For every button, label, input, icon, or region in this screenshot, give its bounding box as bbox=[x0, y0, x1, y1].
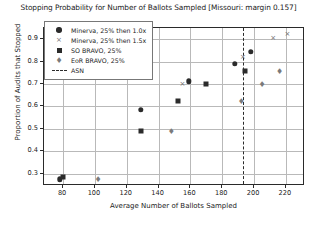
legend-label: ASN bbox=[71, 67, 84, 74]
x-axis-title: Average Number of Ballots Sampled bbox=[43, 202, 304, 210]
legend-marker bbox=[47, 70, 71, 71]
x-tick bbox=[189, 185, 190, 188]
legend-item[interactable]: SO BRAVO, 25% bbox=[47, 45, 150, 55]
legend-marker: ♦ bbox=[47, 57, 71, 64]
legend-label: SO BRAVO, 25% bbox=[71, 47, 121, 54]
data-point: ♦ bbox=[259, 81, 266, 88]
y-tick-label: 0.6 bbox=[28, 101, 39, 109]
marker-circle bbox=[232, 61, 237, 66]
legend-item[interactable]: Minerva, 25% then 1.0x bbox=[47, 25, 150, 35]
data-point: × bbox=[270, 35, 277, 42]
chart-title: Stopping Probability for Number of Ballo… bbox=[0, 3, 317, 12]
y-tick-label: 0.8 bbox=[28, 57, 39, 65]
y-tick bbox=[40, 150, 43, 151]
legend-item[interactable]: ×Minerva, 25% then 1.5x bbox=[47, 35, 150, 45]
data-point bbox=[139, 129, 144, 134]
data-point: ♦ bbox=[168, 128, 175, 135]
x-tick-label: 220 bbox=[279, 189, 292, 197]
y-tick bbox=[40, 83, 43, 84]
data-point bbox=[138, 107, 143, 112]
data-point: × bbox=[284, 30, 291, 37]
x-tick bbox=[253, 185, 254, 188]
asn-vertical-line bbox=[243, 28, 244, 184]
marker-square bbox=[139, 129, 144, 134]
marker-square bbox=[61, 175, 66, 180]
marker-circle bbox=[138, 107, 143, 112]
marker-x: × bbox=[270, 35, 277, 42]
legend-item[interactable]: ASN bbox=[47, 66, 150, 76]
y-tick-label: 0.5 bbox=[28, 124, 39, 132]
legend-marker bbox=[47, 48, 71, 53]
x-tick-label: 100 bbox=[88, 189, 101, 197]
marker-dashed-line bbox=[52, 70, 67, 71]
marker-x: × bbox=[179, 81, 186, 88]
legend-label: Minerva, 25% then 1.5x bbox=[71, 37, 146, 44]
x-tick-label: 200 bbox=[247, 189, 260, 197]
x-tick-label: 140 bbox=[151, 189, 164, 197]
legend-marker: × bbox=[47, 37, 71, 44]
marker-square bbox=[175, 98, 180, 103]
marker-square bbox=[57, 48, 62, 53]
marker-circle bbox=[56, 27, 61, 32]
y-tick-label: 0.4 bbox=[28, 146, 39, 154]
gridline-horizontal bbox=[44, 174, 303, 175]
data-point: ♦ bbox=[95, 175, 102, 182]
y-tick bbox=[40, 173, 43, 174]
y-tick bbox=[40, 61, 43, 62]
marker-x: × bbox=[56, 37, 63, 44]
x-tick-label: 160 bbox=[183, 189, 196, 197]
x-tick-label: 120 bbox=[119, 189, 132, 197]
marker-thin-diamond: ♦ bbox=[95, 175, 102, 182]
gridline-horizontal bbox=[44, 151, 303, 152]
marker-thin-diamond: ♦ bbox=[276, 68, 283, 75]
marker-x: × bbox=[284, 30, 291, 37]
x-tick bbox=[221, 185, 222, 188]
data-point: ♦ bbox=[276, 68, 283, 75]
x-axis: 80100120140160180200220 bbox=[43, 185, 304, 199]
x-tick bbox=[126, 185, 127, 188]
data-point bbox=[232, 61, 237, 66]
legend-marker bbox=[47, 27, 71, 32]
x-tick bbox=[94, 185, 95, 188]
y-tick bbox=[40, 38, 43, 39]
data-point bbox=[204, 81, 209, 86]
y-tick-label: 0.7 bbox=[28, 79, 39, 87]
marker-thin-diamond: ♦ bbox=[56, 57, 63, 64]
data-point bbox=[248, 49, 253, 54]
marker-thin-diamond: ♦ bbox=[259, 81, 266, 88]
gridline-horizontal bbox=[44, 106, 303, 107]
data-point: × bbox=[179, 81, 186, 88]
marker-circle bbox=[248, 49, 253, 54]
x-tick bbox=[285, 185, 286, 188]
marker-circle bbox=[186, 79, 191, 84]
legend-label: EoR BRAVO, 25% bbox=[71, 57, 125, 64]
y-tick bbox=[40, 105, 43, 106]
y-tick-label: 0.3 bbox=[28, 169, 39, 177]
marker-thin-diamond: ♦ bbox=[168, 128, 175, 135]
data-point bbox=[61, 175, 66, 180]
x-tick-label: 80 bbox=[58, 189, 66, 197]
data-point bbox=[186, 79, 191, 84]
y-tick-label: 0.9 bbox=[28, 34, 39, 42]
chart-figure: Stopping Probability for Number of Ballo… bbox=[0, 0, 317, 226]
x-tick bbox=[62, 185, 63, 188]
y-tick bbox=[40, 128, 43, 129]
x-tick-label: 180 bbox=[215, 189, 228, 197]
chart-legend: Minerva, 25% then 1.0x×Minerva, 25% then… bbox=[44, 21, 153, 80]
data-point bbox=[175, 98, 180, 103]
legend-label: Minerva, 25% then 1.0x bbox=[71, 27, 146, 34]
legend-item[interactable]: ♦EoR BRAVO, 25% bbox=[47, 56, 150, 66]
marker-square bbox=[204, 81, 209, 86]
x-tick bbox=[158, 185, 159, 188]
y-axis-title: Proportion of Audits that Stopped bbox=[14, 2, 22, 162]
